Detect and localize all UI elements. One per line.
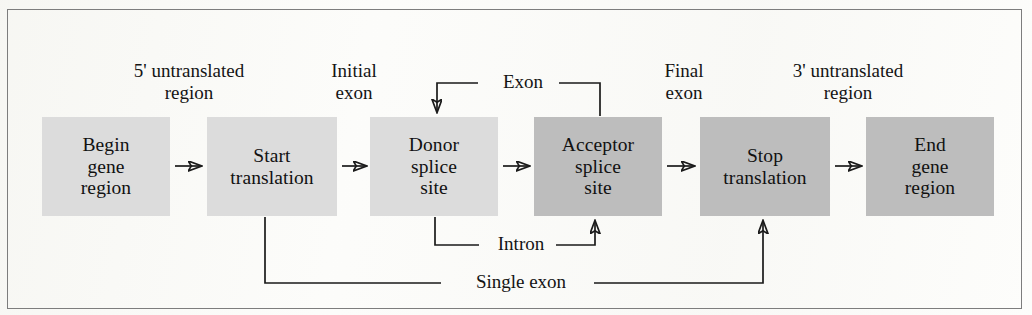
node-acceptor-splice-site[interactable]: Acceptor splice site: [534, 117, 662, 216]
edge-label-intron: Intron: [426, 234, 616, 253]
node-label: Donor splice site: [409, 134, 459, 199]
node-begin-gene-region[interactable]: Begin gene region: [42, 117, 170, 216]
node-label: End gene region: [905, 134, 955, 199]
node-start-translation[interactable]: Start translation: [207, 117, 337, 216]
edge-label-exon: Exon: [428, 72, 618, 91]
node-label: Stop translation: [723, 145, 806, 189]
node-label: Begin gene region: [81, 134, 131, 199]
node-label: Start translation: [230, 145, 313, 189]
node-end-gene-region[interactable]: End gene region: [866, 117, 994, 216]
figure-canvas: 5' untranslated region Initial exon Fina…: [0, 0, 1032, 315]
edge-label-single-exon: Single exon: [426, 272, 616, 291]
node-donor-splice-site[interactable]: Donor splice site: [370, 117, 498, 216]
node-label: Acceptor splice site: [562, 134, 634, 199]
node-stop-translation[interactable]: Stop translation: [700, 117, 830, 216]
